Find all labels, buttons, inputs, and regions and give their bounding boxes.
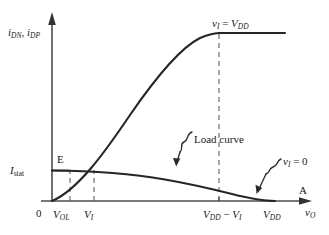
annotation-vi-equals-vdd: vI = VDD: [212, 18, 249, 29]
y-axis-arrowhead: [48, 12, 56, 25]
point-label-a: A: [299, 185, 307, 196]
point-label-e: E: [57, 154, 64, 165]
x-axis-label: vO: [305, 207, 315, 218]
vi-zero-callout-arrow: [256, 159, 282, 194]
x-tick-label-vdd-minus-vi: VDD − VI: [203, 209, 241, 220]
load-curve-callout-arrow: [173, 132, 192, 167]
curve-vi-equals-vdd: [52, 33, 285, 201]
x-tick-label-origin: 0: [36, 208, 42, 219]
x-tick-label-vol: VOL: [53, 209, 69, 220]
x-tick-label-vdd: VDD: [263, 209, 281, 220]
figure-container: iDN, iDP Istat E A vI = VDD vI = 0 Load …: [0, 0, 329, 235]
x-tick-label-vi: VI: [84, 209, 93, 220]
plot-canvas: [0, 0, 329, 235]
y-tick-label-istat: Istat: [10, 165, 24, 176]
annotation-load-curve: Load curve: [194, 134, 244, 145]
y-axis-label: iDN, iDP: [8, 27, 40, 38]
x-axis-arrowhead: [299, 197, 312, 205]
annotation-vi-equals-zero: vI = 0: [283, 156, 308, 167]
axes-group: [41, 12, 312, 205]
